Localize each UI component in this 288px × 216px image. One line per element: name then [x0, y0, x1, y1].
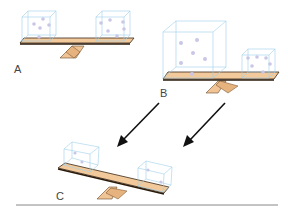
balance-diagram: A B C [0, 0, 288, 216]
gas-box-a-right [96, 11, 130, 41]
fulcrum-a-icon [60, 46, 84, 58]
arrow-b-to-c-right-icon [183, 103, 225, 147]
panel-b [163, 21, 279, 93]
panel-label-c: C [56, 190, 64, 202]
panel-a [20, 11, 134, 58]
fulcrum-b-icon [206, 81, 238, 93]
beam-b [163, 72, 279, 80]
gas-box-b-large [163, 21, 226, 78]
panel-label-b: B [160, 87, 167, 99]
gas-box-a-left [22, 11, 56, 41]
fulcrum-c-icon [97, 187, 127, 199]
panel-label-a: A [14, 63, 21, 75]
arrow-b-to-c-left-icon [117, 103, 159, 147]
